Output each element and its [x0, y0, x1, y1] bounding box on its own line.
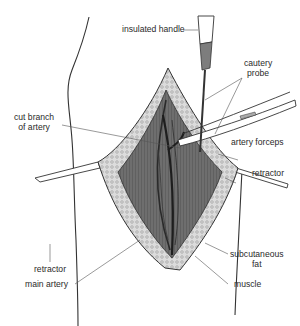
label-main-artery: main artery: [25, 280, 68, 290]
label-cautery-probe-line2: probe: [244, 69, 272, 79]
retractor-flap-left: [35, 162, 100, 182]
surgical-diagram: [0, 0, 300, 326]
label-cut-branch-line2: of artery: [14, 123, 54, 133]
label-artery-forceps: artery forceps: [231, 138, 284, 148]
body-outline-right: [235, 170, 242, 315]
label-retractor-left: retractor: [34, 265, 66, 275]
insulated-handle: [198, 16, 214, 44]
label-retractor-right: retractor: [252, 169, 284, 179]
label-cut-branch-of-artery: cut branch of artery: [14, 113, 54, 132]
label-subcutaneous-fat-line2: fat: [230, 260, 284, 270]
label-muscle: muscle: [234, 280, 261, 290]
label-insulated-handle: insulated handle: [122, 25, 185, 35]
label-cautery-probe: cautery probe: [244, 59, 272, 78]
label-subcutaneous-fat: subcutaneous fat: [230, 250, 284, 269]
